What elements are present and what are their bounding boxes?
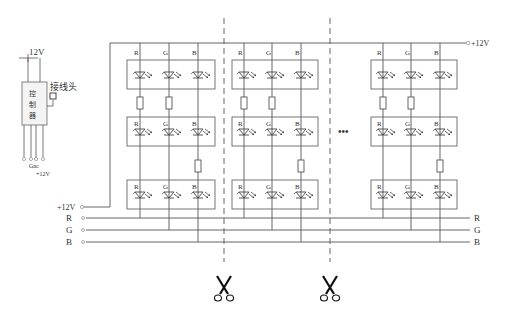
svg-text:B: B [192,183,197,191]
svg-text:B: B [434,49,439,57]
svg-text:B: B [295,120,300,128]
svg-text:G: G [163,183,168,191]
bus-left-g: G [66,225,73,235]
ellipsis: ••• [338,126,349,137]
bus-right-g: G [474,225,481,235]
svg-text:R: R [377,183,382,191]
controller-char-3: 器 [29,112,36,120]
power-rail: +12V +12V [57,39,490,212]
connector-icon [50,93,56,99]
controller-gnd-label: Gnc [29,163,39,169]
svg-text:G: G [163,49,168,57]
rgb-bus: R G B R G B [66,213,481,247]
svg-text:R: R [134,49,139,57]
led-strip-wiring-diagram: 12V 控 制 器 接线头 Gnc +12V +12V +12V [0,0,506,324]
bus-left-b: B [66,237,72,247]
power-label-right: +12V [471,39,490,48]
controller-top-label: 12V [29,47,45,57]
svg-text:R: R [134,183,139,191]
bus-right-r: R [474,213,480,223]
svg-text:R: R [134,120,139,128]
svg-text:B: B [434,183,439,191]
svg-text:B: B [295,49,300,57]
svg-text:G: G [266,183,271,191]
power-label-left: +12V [57,203,76,212]
bus-left-r: R [66,213,72,223]
svg-text:R: R [377,49,382,57]
led-segment-1: R G B R G B R G B [127,43,215,242]
bus-right-b: B [474,237,480,247]
scissors-icon [321,276,340,301]
svg-text:B: B [192,120,197,128]
scissors-icon [215,276,234,301]
svg-text:G: G [266,49,271,57]
svg-text:G: G [405,49,410,57]
connector-label: 接线头 [50,81,77,92]
svg-text:R: R [238,183,243,191]
svg-text:G: G [163,120,168,128]
controller: 12V 控 制 器 接线头 Gnc +12V [19,47,77,177]
svg-text:G: G [266,120,271,128]
controller-12v-label: +12V [36,171,50,177]
svg-text:B: B [295,183,300,191]
svg-text:R: R [377,120,382,128]
led-segment-3: R G B R G B R G B [371,43,457,242]
svg-text:B: B [192,49,197,57]
controller-char-2: 制 [29,100,36,109]
svg-text:G: G [405,183,410,191]
controller-char-1: 控 [29,89,36,98]
svg-text:G: G [405,120,410,128]
svg-text:B: B [434,120,439,128]
svg-text:R: R [238,120,243,128]
led-segment-2: R G B R G B R G B [232,43,318,242]
svg-text:R: R [238,49,243,57]
